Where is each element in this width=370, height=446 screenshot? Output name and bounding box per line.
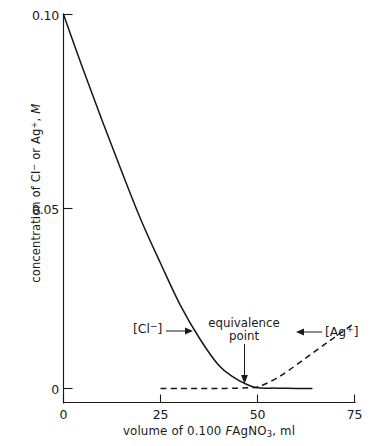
equivalence-point-line-1: equivalence — [208, 316, 279, 330]
x-tick-label-25: 25 — [148, 407, 173, 422]
equivalence-leader — [241, 344, 248, 384]
x-axis-label-unit: , ml — [272, 424, 295, 438]
x-axis-label-prefix: volume of 0.100 — [123, 424, 226, 438]
y-axis-label-molarity: M — [29, 104, 43, 114]
y-axis-label-suffix: , — [29, 114, 43, 122]
y-axis-label-prefix: concentration of Cl — [29, 171, 43, 283]
silver-symbol: Ag — [330, 324, 346, 339]
x-tick-label-50: 50 — [245, 407, 270, 422]
y-tick-label-0.10: 0.10 — [21, 8, 59, 23]
silver-charge: + — [346, 324, 353, 334]
y-axis-label-mid: or Ag — [29, 129, 43, 164]
y-axis-label: concentration of Cl− or Ag+, M — [29, 78, 44, 308]
y-axis-label-chloride-charge: − — [29, 164, 39, 171]
silver-leader — [296, 329, 322, 336]
chloride-bracket-close: ] — [157, 321, 162, 336]
silver-series-label: [Ag+] — [325, 324, 359, 339]
y-axis-label-silver-charge: + — [29, 121, 39, 128]
x-tick-label-0: 0 — [51, 407, 76, 422]
chloride-series-label: [Cl−] — [133, 321, 162, 336]
silver-bracket-close: ] — [354, 324, 359, 339]
titration-curve-figure: 0.10 0.05 0 0 25 50 75 concentration of … — [0, 0, 370, 446]
chloride-symbol: Cl — [138, 321, 150, 336]
x-axis-label-compound: AgNO — [232, 424, 266, 438]
plot-canvas — [0, 0, 370, 446]
chloride-leader — [166, 328, 193, 335]
x-axis-label: volume of 0.100 FAgNO3, ml — [63, 424, 355, 439]
equivalence-point-line-2: point — [229, 329, 259, 343]
y-tick-label-0: 0 — [21, 382, 59, 397]
x-tick-label-75: 75 — [342, 407, 367, 422]
equivalence-point-label: equivalencepoint — [196, 317, 292, 343]
